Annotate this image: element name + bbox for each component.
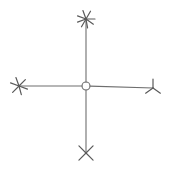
- radial-diagram: [0, 0, 170, 176]
- diagram-svg: [0, 0, 170, 176]
- right-tripod-3-ray-icon: [146, 79, 161, 93]
- branch-line-right: [90, 86, 153, 88]
- branch-lines: [19, 19, 153, 153]
- center-node-circle: [82, 82, 90, 90]
